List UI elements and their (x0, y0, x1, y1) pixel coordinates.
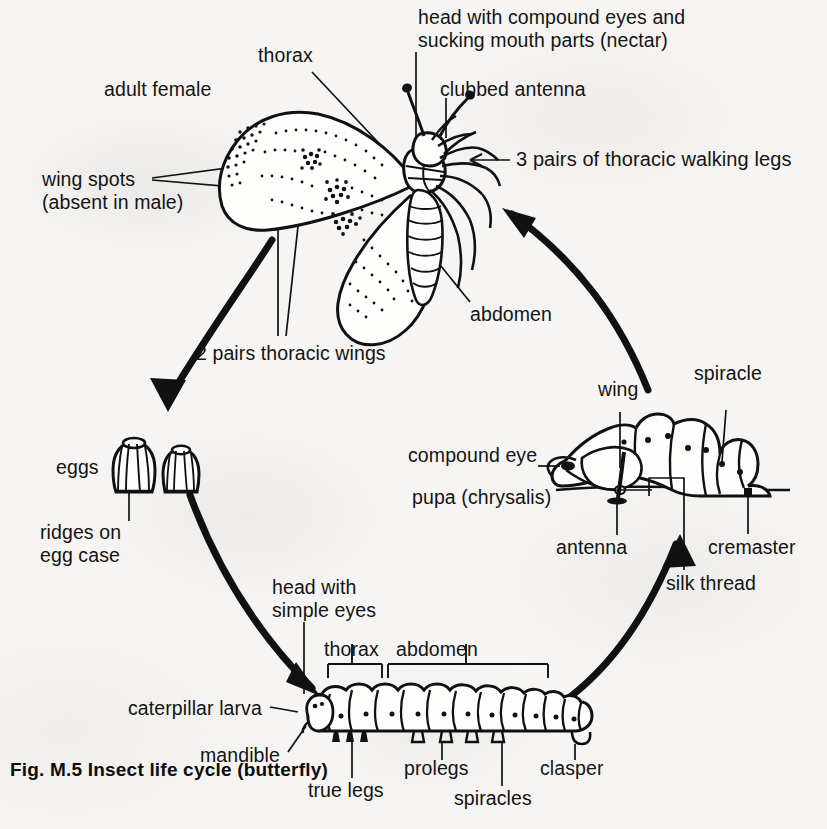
leader-larva-mandible (288, 726, 306, 752)
label-pupa-chrysalis: pupa (chrysalis) (412, 486, 551, 509)
cycle-arrow-pupa-to-adult (502, 208, 648, 390)
pupa-compound-eye (561, 462, 575, 471)
larva-prolegs (412, 731, 504, 742)
leader-larva-body (270, 707, 298, 712)
label-egg-ridges-line1: ridges on (40, 521, 121, 544)
label-caterpillar-larva: caterpillar larva (128, 697, 262, 720)
label-adult-abdomen: abdomen (470, 303, 552, 326)
label-larva-abdomen: abdomen (396, 638, 478, 661)
figure-caption: Fig. M.5 Insect life cycle (butterfly) (10, 759, 328, 781)
label-larva-head-line1: head with (272, 576, 356, 599)
label-larva-prolegs: prolegs (404, 757, 469, 780)
adult-butterfly-drawing (219, 82, 500, 345)
larva-true-legs (332, 731, 368, 742)
label-pupa-spiracle: spiracle (694, 362, 762, 385)
label-larva-thorax: thorax (324, 638, 379, 661)
larva-clasper (572, 731, 590, 744)
label-larva-head-line2: simple eyes (272, 599, 376, 622)
larva-simple-eye (313, 704, 318, 709)
cycle-arrow-adult-to-eggs (150, 240, 272, 412)
label-adult-head-line1: head with compound eyes and (418, 6, 685, 29)
label-walking-legs: 3 pairs of thoracic walking legs (516, 148, 792, 171)
label-eggs: eggs (56, 456, 99, 479)
label-pupa-wing: wing (598, 378, 639, 401)
life-cycle-illustration (0, 0, 827, 829)
label-adult-thorax: thorax (258, 44, 313, 67)
label-pupa-compound-eye: compound eye (408, 444, 537, 467)
label-wing-spots-line2: (absent in male) (42, 191, 183, 214)
label-pupa-silk-thread: silk thread (666, 572, 756, 595)
label-clubbed-antenna: clubbed antenna (440, 78, 586, 101)
label-adult-head-line2: sucking mouth parts (nectar) (418, 29, 668, 52)
label-thoracic-wings: 2 pairs thoracic wings (196, 342, 386, 365)
eggs-drawing (113, 438, 199, 521)
label-pupa-antenna: antenna (556, 536, 627, 559)
label-pupa-cremaster: cremaster (708, 536, 796, 559)
label-larva-true-legs: true legs (308, 779, 384, 802)
label-wing-spots-line1: wing spots (42, 168, 135, 191)
label-adult-female: adult female (104, 78, 211, 101)
label-larva-spiracles: spiracles (454, 787, 532, 810)
label-egg-ridges-line2: egg case (40, 544, 120, 567)
figure-page: adult female thorax head with compound e… (0, 0, 827, 829)
label-larva-clasper: clasper (540, 757, 604, 780)
